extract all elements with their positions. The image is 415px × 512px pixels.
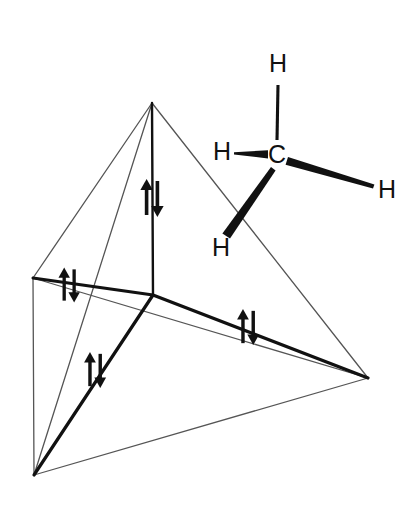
hydrogen-right-label: H: [378, 175, 396, 203]
carbon-label: C: [268, 140, 286, 168]
edge-bottom-left-right: [34, 378, 368, 475]
edge-apex-bottom-left: [34, 103, 152, 475]
edge-apex-left: [33, 103, 152, 278]
tetrahedron-bonds: [33, 103, 368, 475]
bond-to-apex: [152, 103, 153, 295]
tetrahedron-edges: [33, 103, 368, 475]
bond-to-left: [33, 278, 153, 295]
bond-to-bottom-left: [34, 295, 153, 475]
bond-c-h-top: [277, 85, 278, 140]
hydrogen-left-label: H: [213, 137, 231, 165]
edge-left-bottom-left: [33, 278, 34, 475]
hydrogen-top-label: H: [269, 49, 287, 77]
electron-pairs: [58, 179, 259, 388]
bond-c-h-right: [286, 157, 375, 189]
methane-molecule: C H H H H: [212, 49, 396, 261]
tetrahedron-methane-diagram: C H H H H: [0, 0, 415, 512]
chemistry-figure: C H H H H: [0, 0, 415, 512]
edge-left-right: [33, 278, 368, 378]
bond-c-h-left: [234, 150, 268, 158]
hydrogen-bottom-label: H: [212, 233, 230, 261]
